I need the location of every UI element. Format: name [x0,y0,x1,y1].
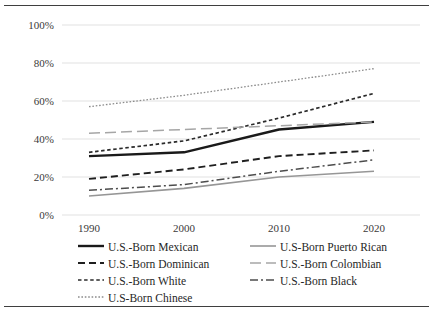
y-axis-tick-label: 60% [34,95,54,107]
chart-legend: U.S.-Born MexicanU.S.-Born DominicanU.S.… [0,236,433,306]
chart-figure: 0%20%40%60%80%100%1990200020102020 U.S.-… [0,0,433,312]
legend-label: U.S.-Born Colombian [280,258,382,270]
legend-label: U.S-Born Puerto Rican [280,241,387,253]
y-axis-tick-label: 100% [28,19,54,31]
legend-label: U.S.-Born Dominican [108,258,210,270]
x-axis-tick-label: 2010 [268,222,291,234]
legend-label: U.S-Born Chinese [108,292,192,304]
legend-svg: U.S.-Born MexicanU.S.-Born DominicanU.S.… [0,236,433,306]
legend-label: U.S.-Born Black [280,275,357,287]
legend-label: U.S.-Born White [108,275,186,287]
y-axis-tick-label: 40% [34,133,54,145]
figure-bottom-rule [4,306,429,307]
series-line [89,93,374,152]
y-axis-tick-label: 80% [34,57,54,69]
line-chart-svg: 0%20%40%60%80%100%1990200020102020 [0,8,433,236]
y-axis-tick-label: 0% [39,209,54,221]
series-line [89,160,374,190]
series-line [89,171,374,196]
x-axis-tick-label: 1990 [78,222,101,234]
legend-label: U.S.-Born Mexican [108,241,199,253]
x-axis-tick-label: 2000 [173,222,196,234]
figure-top-rule [4,5,429,6]
y-axis-tick-label: 20% [34,171,54,183]
x-axis-tick-label: 2020 [363,222,386,234]
series-line [89,122,374,133]
plot-area: 0%20%40%60%80%100%1990200020102020 [0,8,433,236]
